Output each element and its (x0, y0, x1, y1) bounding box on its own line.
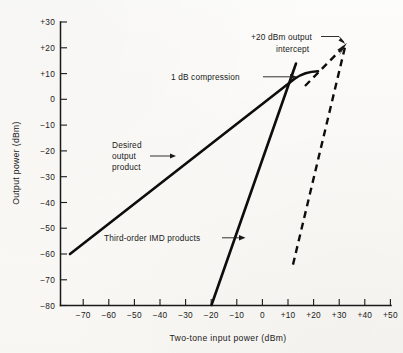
y-tick-labels: +30 +20 +10 0 −10 −20 −30 −40 −50 −60 −7… (40, 17, 55, 311)
y-label-20: +20 (40, 43, 55, 53)
x-label-0: 0 (260, 310, 265, 320)
figure-page: +30 +20 +10 0 −10 −20 −30 −40 −50 −60 −7… (0, 0, 403, 353)
x-tick-labels: −70 −60 −50 −40 −30 −20 −10 0 +10 +20 +3… (76, 310, 398, 320)
x-label-10: +10 (281, 310, 296, 320)
y-label-10: +10 (40, 69, 55, 79)
x-axis-title: Two-tone input power (dBm) (169, 333, 286, 343)
x-label-40: +40 (357, 310, 372, 320)
annot-intercept-line1: +20 dBm output (251, 32, 312, 42)
annot-desired-line1: Desired (112, 140, 142, 150)
y-label-m60: −60 (40, 249, 55, 259)
annot-desired-line2: output (112, 151, 137, 161)
y-label-m30: −30 (40, 172, 55, 182)
x-label-m50: −50 (127, 310, 142, 320)
y-ticks (61, 22, 68, 306)
series-imd-extrapolation (293, 45, 346, 265)
annotation-desired-output-product: Desired output product (112, 140, 176, 172)
y-label-m80: −80 (40, 301, 55, 311)
x-label-m40: −40 (153, 310, 168, 320)
y-label-0: 0 (50, 94, 55, 104)
annot-imd-arrow-icon (239, 235, 246, 241)
annotation-output-intercept: +20 dBm output intercept (251, 32, 346, 54)
y-label-m20: −20 (40, 146, 55, 156)
x-label-m10: −10 (229, 310, 244, 320)
annot-compression-text: 1 dB compression (171, 72, 240, 82)
annotation-third-order-imd: Third-order IMD products (104, 233, 246, 243)
annotation-one-db-compression: 1 dB compression (171, 72, 297, 82)
y-label-30: +30 (40, 17, 55, 27)
x-label-m60: −60 (101, 310, 116, 320)
intercept-point-chart: +30 +20 +10 0 −10 −20 −30 −40 −50 −60 −7… (0, 0, 403, 353)
series-third-order-imd-products (212, 64, 297, 306)
y-label-m10: −10 (40, 120, 55, 130)
series-desired-output-product (70, 71, 318, 254)
annot-intercept-line2: intercept (276, 44, 310, 54)
y-label-m70: −70 (40, 275, 55, 285)
x-label-20: +20 (306, 310, 321, 320)
x-ticks (83, 299, 390, 306)
x-label-m70: −70 (76, 310, 91, 320)
x-label-30: +30 (332, 310, 347, 320)
x-label-50: +50 (383, 310, 398, 320)
x-label-m30: −30 (178, 310, 193, 320)
y-axis-title: Output power (dBm) (11, 121, 21, 205)
annot-imd-text: Third-order IMD products (104, 233, 200, 243)
annot-desired-arrow-icon (170, 153, 176, 158)
annot-intercept-arrow-icon (339, 38, 346, 44)
y-label-m50: −50 (40, 223, 55, 233)
x-label-m20: −20 (204, 310, 219, 320)
y-label-m40: −40 (40, 198, 55, 208)
annot-desired-line3: product (112, 162, 141, 172)
